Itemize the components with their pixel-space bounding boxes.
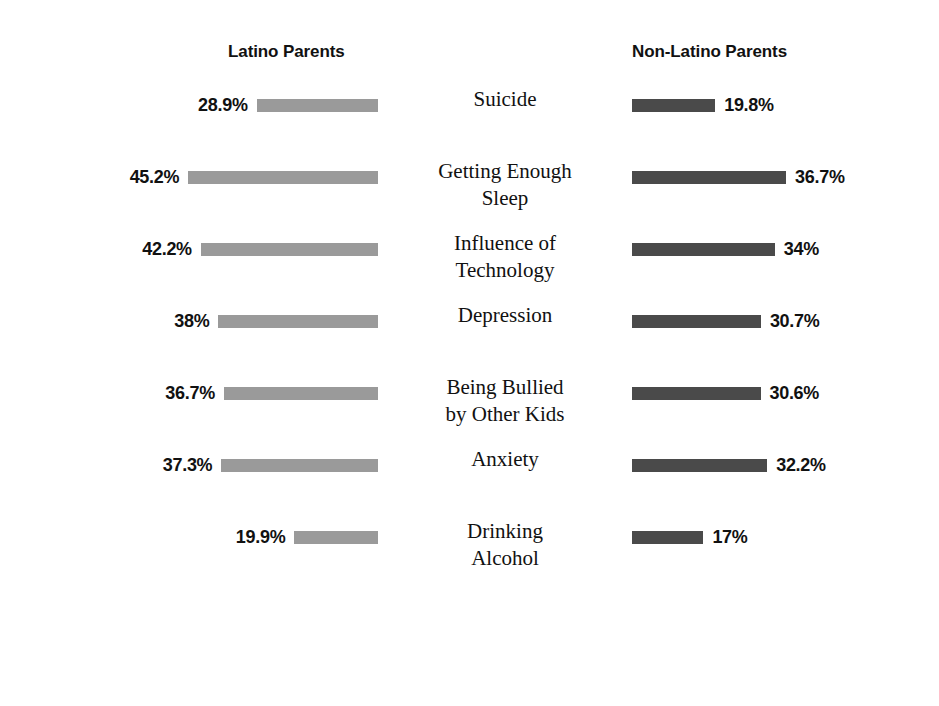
category-label: Influence ofTechnology: [378, 230, 632, 284]
latino-bar: [224, 387, 378, 400]
latino-bar-group: 28.9%: [0, 92, 378, 118]
category-label-line: by Other Kids: [378, 401, 632, 428]
non-latino-value-label: 34%: [784, 240, 819, 258]
latino-value-label: 36.7%: [165, 384, 215, 402]
non-latino-bar: [632, 387, 761, 400]
chart-row: 28.9%Suicide19.8%: [0, 92, 939, 164]
category-label: Getting EnoughSleep: [378, 158, 632, 212]
category-label-line: Technology: [378, 257, 632, 284]
non-latino-bar-group: 30.6%: [632, 380, 939, 406]
category-label-line: Being Bullied: [378, 374, 632, 401]
non-latino-bar: [632, 243, 775, 256]
category-label: Anxiety: [378, 446, 632, 473]
butterfly-bar-chart: Latino Parents Non-Latino Parents 28.9%S…: [0, 0, 939, 706]
latino-bar: [218, 315, 378, 328]
category-label-line: Anxiety: [378, 446, 632, 473]
latino-bar-group: 36.7%: [0, 380, 378, 406]
category-label-line: Getting Enough: [378, 158, 632, 185]
category-label-line: Drinking: [378, 518, 632, 545]
latino-value-label: 28.9%: [198, 96, 248, 114]
latino-bar-group: 45.2%: [0, 164, 378, 190]
column-header-non-latino: Non-Latino Parents: [632, 42, 787, 62]
category-label-line: Sleep: [378, 185, 632, 212]
non-latino-value-label: 32.2%: [776, 456, 826, 474]
non-latino-bar: [632, 459, 767, 472]
non-latino-value-label: 30.6%: [770, 384, 820, 402]
column-header-latino: Latino Parents: [228, 42, 345, 62]
latino-value-label: 37.3%: [163, 456, 213, 474]
chart-rows: 28.9%Suicide19.8%45.2%Getting EnoughSlee…: [0, 92, 939, 596]
non-latino-value-label: 17%: [712, 528, 747, 546]
non-latino-value-label: 36.7%: [795, 168, 845, 186]
non-latino-bar: [632, 171, 786, 184]
latino-bar: [294, 531, 378, 544]
category-label: Being Bulliedby Other Kids: [378, 374, 632, 428]
non-latino-value-label: 30.7%: [770, 312, 820, 330]
category-label-line: Suicide: [378, 86, 632, 113]
chart-row: 36.7%Being Bulliedby Other Kids30.6%: [0, 380, 939, 452]
category-label-line: Depression: [378, 302, 632, 329]
latino-value-label: 45.2%: [130, 168, 180, 186]
latino-value-label: 38%: [174, 312, 209, 330]
latino-value-label: 19.9%: [236, 528, 286, 546]
chart-row: 37.3%Anxiety32.2%: [0, 452, 939, 524]
category-label: Depression: [378, 302, 632, 329]
latino-bar-group: 42.2%: [0, 236, 378, 262]
non-latino-value-label: 19.8%: [724, 96, 774, 114]
non-latino-bar-group: 30.7%: [632, 308, 939, 334]
latino-bar: [221, 459, 378, 472]
non-latino-bar: [632, 99, 715, 112]
non-latino-bar-group: 32.2%: [632, 452, 939, 478]
category-label: Suicide: [378, 86, 632, 113]
latino-bar: [257, 99, 378, 112]
chart-row: 19.9%DrinkingAlcohol17%: [0, 524, 939, 596]
chart-column-headers: Latino Parents Non-Latino Parents: [0, 42, 939, 66]
non-latino-bar-group: 17%: [632, 524, 939, 550]
non-latino-bar-group: 36.7%: [632, 164, 939, 190]
latino-bar-group: 38%: [0, 308, 378, 334]
latino-bar-group: 19.9%: [0, 524, 378, 550]
category-label-line: Alcohol: [378, 545, 632, 572]
chart-row: 42.2%Influence ofTechnology34%: [0, 236, 939, 308]
non-latino-bar: [632, 531, 703, 544]
non-latino-bar: [632, 315, 761, 328]
chart-row: 45.2%Getting EnoughSleep36.7%: [0, 164, 939, 236]
non-latino-bar-group: 34%: [632, 236, 939, 262]
latino-bar-group: 37.3%: [0, 452, 378, 478]
category-label-line: Influence of: [378, 230, 632, 257]
category-label: DrinkingAlcohol: [378, 518, 632, 572]
latino-bar: [188, 171, 378, 184]
non-latino-bar-group: 19.8%: [632, 92, 939, 118]
latino-value-label: 42.2%: [142, 240, 192, 258]
latino-bar: [201, 243, 378, 256]
chart-row: 38%Depression30.7%: [0, 308, 939, 380]
